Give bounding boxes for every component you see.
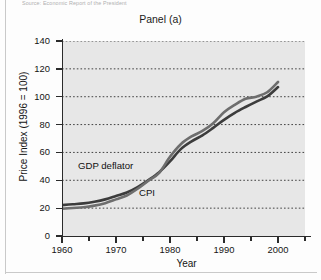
y-tick-label: 0 <box>20 230 50 241</box>
x-tick-label: 1970 <box>96 244 136 255</box>
series-line-cpi <box>62 82 278 209</box>
x-axis-title: Year <box>62 258 311 269</box>
x-tick-minor <box>142 237 143 241</box>
x-tick-major <box>223 237 224 243</box>
x-tick-minor <box>196 237 197 241</box>
x-axis-spine <box>62 236 311 237</box>
y-tick <box>56 152 62 153</box>
plot-area <box>62 41 305 236</box>
y-axis-title: Price Index (1996 = 100) <box>18 52 29 202</box>
y-tick <box>56 96 62 97</box>
page-frame-left-rule <box>5 0 6 274</box>
y-tick <box>56 124 62 125</box>
plot-canvas <box>62 41 305 236</box>
y-tick-label: 20 <box>20 202 50 213</box>
x-tick-major <box>115 237 116 243</box>
y-tick <box>56 40 62 41</box>
chart-title: Panel (a) <box>0 13 321 25</box>
x-tick-minor <box>304 237 305 241</box>
y-tick <box>56 180 62 181</box>
series-line-gdp-deflator <box>62 87 278 205</box>
x-tick-major <box>277 237 278 243</box>
x-tick-major <box>169 237 170 243</box>
x-tick-label: 2000 <box>258 244 298 255</box>
y-axis-spine <box>62 39 63 238</box>
cutoff-caption-text: Source: Economic Report of the President <box>22 0 212 7</box>
x-tick-label: 1980 <box>150 244 190 255</box>
x-tick-minor <box>88 237 89 241</box>
series-label-gdp-deflator: GDP deflator <box>78 160 133 171</box>
y-tick <box>56 68 62 69</box>
y-tick <box>56 208 62 209</box>
page-frame-bottom-rule <box>5 272 317 273</box>
x-tick-minor <box>250 237 251 241</box>
series-label-cpi: CPI <box>139 187 155 198</box>
x-tick-label: 1990 <box>204 244 244 255</box>
scanned-page: Source: Economic Report of the President… <box>0 0 321 280</box>
x-tick-major <box>61 237 62 243</box>
y-tick-label: 140 <box>20 35 50 46</box>
x-tick-label: 1960 <box>42 244 82 255</box>
